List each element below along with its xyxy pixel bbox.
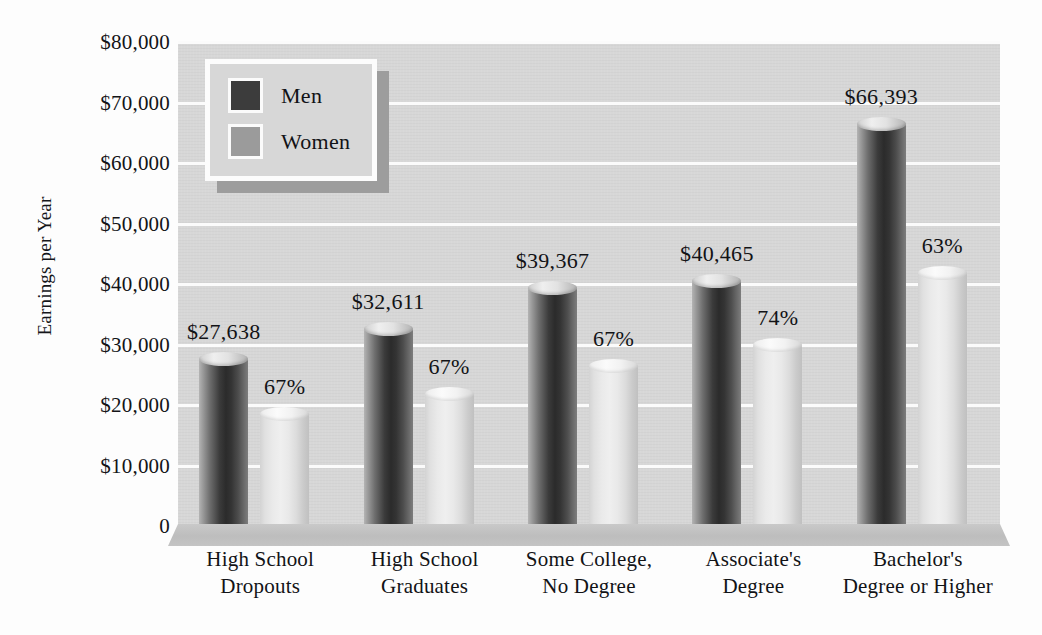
y-axis-title: Earnings per Year	[34, 141, 56, 391]
category-label-5: Bachelor'sDegree or Higher	[843, 546, 993, 600]
category-label-3: Some College,No Degree	[526, 546, 652, 600]
men-swatch-icon	[228, 78, 263, 113]
category-label-line: Dropouts	[206, 573, 314, 600]
bar-body	[692, 281, 741, 526]
category-label-line: Degree	[705, 573, 801, 600]
bar-body	[364, 329, 413, 526]
bar-body	[260, 414, 309, 526]
women-swatch-icon	[228, 124, 263, 159]
value-label-women-5: 63%	[922, 233, 963, 259]
category-label-1: High SchoolDropouts	[206, 546, 314, 600]
category-label-line: Some College,	[526, 546, 652, 573]
y-tick-label: $20,000	[100, 393, 170, 418]
bar-body	[528, 288, 577, 526]
value-label-men-2: $32,611	[352, 289, 425, 315]
y-axis-tick-labels: $80,000$70,000$60,000$50,000$40,000$30,0…	[62, 42, 170, 526]
category-label-2: High SchoolGraduates	[371, 546, 479, 600]
bar-women-3[interactable]	[589, 366, 638, 526]
value-label-women-2: 67%	[428, 354, 469, 380]
y-tick-label: $10,000	[100, 453, 170, 478]
bar-cap	[918, 266, 967, 280]
earnings-by-education-bar-chart: Earnings per Year $80,000$70,000$60,000$…	[0, 0, 1042, 635]
legend-item-men: Men	[228, 78, 322, 113]
bar-cap	[753, 338, 802, 352]
bar-women-2[interactable]	[425, 394, 474, 526]
category-label-line: Associate's	[705, 546, 801, 573]
legend-box: Men Women	[205, 59, 377, 181]
bar-cap	[425, 387, 474, 401]
bar-body	[753, 345, 802, 526]
y-tick-label: $50,000	[100, 211, 170, 236]
y-tick-label: $70,000	[100, 90, 170, 115]
value-label-men-5: $66,393	[844, 84, 918, 110]
y-tick-label: $60,000	[100, 151, 170, 176]
bar-men-5[interactable]	[857, 124, 906, 526]
bar-cap	[528, 281, 577, 295]
bar-cap	[260, 407, 309, 421]
bar-men-4[interactable]	[692, 281, 741, 526]
x-axis-category-labels: High SchoolDropoutsHigh SchoolGraduatesS…	[178, 546, 1000, 626]
bar-cap	[364, 322, 413, 336]
y-tick-label: $30,000	[100, 332, 170, 357]
value-label-women-4: 74%	[757, 305, 798, 331]
category-label-line: Bachelor's	[843, 546, 993, 573]
bar-women-5[interactable]	[918, 273, 967, 526]
value-label-men-3: $39,367	[516, 248, 590, 274]
category-label-line: Graduates	[371, 573, 479, 600]
bar-women-4[interactable]	[753, 345, 802, 526]
chart-floor	[168, 524, 1010, 546]
bar-cap	[199, 352, 248, 366]
bar-men-2[interactable]	[364, 329, 413, 526]
bar-men-1[interactable]	[199, 359, 248, 526]
value-label-men-4: $40,465	[680, 241, 754, 267]
bar-women-1[interactable]	[260, 414, 309, 526]
gridline	[178, 41, 1000, 44]
value-label-women-1: 67%	[264, 374, 305, 400]
floor-slab	[168, 524, 1010, 546]
category-label-4: Associate'sDegree	[705, 546, 801, 600]
category-label-line: Degree or Higher	[843, 573, 993, 600]
category-label-line: No Degree	[526, 573, 652, 600]
bar-body	[918, 273, 967, 526]
bar-body	[425, 394, 474, 526]
legend-item-women: Women	[228, 124, 350, 159]
y-tick-label: $80,000	[100, 30, 170, 55]
value-label-men-1: $27,638	[187, 319, 261, 345]
legend-label-women: Women	[281, 129, 350, 155]
category-label-line: High School	[371, 546, 479, 573]
bar-body	[199, 359, 248, 526]
bar-body	[589, 366, 638, 526]
bar-men-3[interactable]	[528, 288, 577, 526]
legend-label-men: Men	[281, 83, 322, 109]
value-label-women-3: 67%	[593, 326, 634, 352]
y-tick-label: $40,000	[100, 272, 170, 297]
legend: Men Women	[205, 59, 377, 181]
bar-body	[857, 124, 906, 526]
category-label-line: High School	[206, 546, 314, 573]
